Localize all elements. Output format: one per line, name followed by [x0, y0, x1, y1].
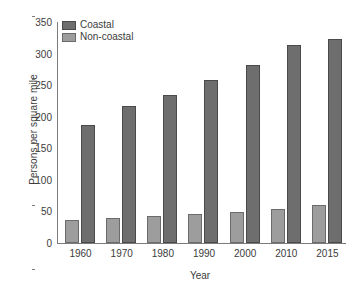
- bar-noncoastal: [65, 220, 79, 243]
- bar-group: [104, 22, 140, 243]
- bar-coastal: [204, 80, 218, 243]
- legend-label: Non-coastal: [80, 31, 133, 43]
- chart-legend: CoastalNon-coastal: [62, 19, 133, 43]
- bar-noncoastal: [106, 218, 120, 243]
- bar-coastal: [81, 125, 95, 243]
- bar-coastal: [163, 95, 177, 243]
- y-tick-mark: [32, 142, 35, 143]
- bar-group: [310, 22, 346, 243]
- bar-group: [269, 22, 305, 243]
- legend-swatch-noncoastal: [62, 33, 76, 42]
- y-tick-label: 300: [35, 48, 57, 59]
- y-axis-title: Persons per square mile: [28, 45, 39, 215]
- bar-noncoastal: [147, 216, 161, 243]
- x-tick-label: 1970: [102, 248, 142, 259]
- y-tick-label: 50: [41, 206, 57, 217]
- legend-item: Coastal: [62, 19, 133, 31]
- bar-series-container: [58, 22, 346, 243]
- x-tick-label: 2010: [266, 248, 306, 259]
- bar-group: [145, 22, 181, 243]
- bar-group: [63, 22, 99, 243]
- x-tick-label: 2015: [307, 248, 347, 259]
- y-tick-label: 0: [46, 238, 57, 249]
- y-tick-mark: [32, 205, 35, 206]
- bar-noncoastal: [188, 214, 202, 243]
- x-tick-label: 1990: [184, 248, 224, 259]
- bar-chart-figure: Persons per square mile Year 05010015020…: [0, 0, 358, 291]
- y-tick-label: 150: [35, 143, 57, 154]
- bar-noncoastal: [312, 205, 326, 243]
- y-tick-label: 200: [35, 111, 57, 122]
- bar-noncoastal: [271, 209, 285, 243]
- y-tick-label: 250: [35, 80, 57, 91]
- y-tick-mark: [32, 79, 35, 80]
- y-tick-mark: [32, 269, 35, 270]
- legend-item: Non-coastal: [62, 31, 133, 43]
- bar-coastal: [122, 106, 136, 243]
- bar-group: [228, 22, 264, 243]
- bar-coastal: [287, 45, 301, 243]
- x-tick-label: 1960: [61, 248, 101, 259]
- plot-area: 050100150200250300350 196019701980199020…: [57, 22, 345, 243]
- y-tick-label: 100: [35, 174, 57, 185]
- bar-noncoastal: [230, 212, 244, 243]
- bar-coastal: [328, 39, 342, 243]
- legend-swatch-coastal: [62, 21, 76, 30]
- x-axis-line: [57, 243, 346, 244]
- y-tick-label: 350: [35, 17, 57, 28]
- bar-coastal: [246, 65, 260, 243]
- x-tick-label: 1980: [143, 248, 183, 259]
- x-tick-label: 2000: [225, 248, 265, 259]
- bar-group: [186, 22, 222, 243]
- legend-label: Coastal: [80, 19, 114, 31]
- y-tick-mark: [32, 16, 35, 17]
- x-axis-title: Year: [55, 270, 345, 281]
